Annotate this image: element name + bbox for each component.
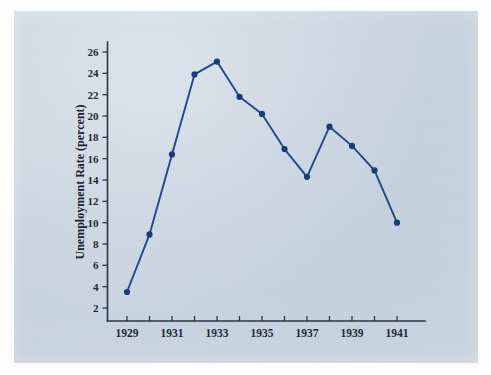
y-tick-label: 20 bbox=[88, 110, 100, 122]
data-point bbox=[259, 111, 265, 117]
figure-root: 2468101214161820222426 19291931193319351… bbox=[0, 0, 491, 375]
y-tick-label: 12 bbox=[88, 195, 100, 207]
y-tick-label: 18 bbox=[88, 131, 100, 143]
y-tick-label: 4 bbox=[93, 281, 99, 293]
y-tick-label: 22 bbox=[88, 89, 100, 101]
y-tick-label: 24 bbox=[88, 67, 100, 79]
y-tick-label: 14 bbox=[88, 174, 100, 186]
x-tick-label: 1929 bbox=[116, 327, 139, 339]
y-tick-label: 10 bbox=[88, 217, 100, 229]
data-point bbox=[214, 59, 220, 65]
x-tick-label: 1941 bbox=[386, 327, 409, 339]
x-tick-label: 1931 bbox=[161, 327, 184, 339]
axes-group bbox=[108, 42, 426, 321]
y-axis-title: Unemployment Rate (percent) bbox=[73, 104, 87, 259]
data-point bbox=[146, 231, 152, 237]
data-point bbox=[371, 167, 377, 173]
y-tick-label: 6 bbox=[93, 259, 99, 271]
data-point bbox=[281, 146, 287, 152]
data-point bbox=[326, 124, 332, 130]
data-series-line bbox=[127, 62, 397, 292]
data-point bbox=[349, 143, 355, 149]
data-point bbox=[236, 94, 242, 100]
x-tick-label: 1933 bbox=[206, 327, 229, 339]
y-tick-label: 26 bbox=[88, 46, 100, 58]
y-tick-label: 8 bbox=[93, 238, 99, 250]
y-axis-tick-labels: 2468101214161820222426 bbox=[88, 46, 100, 314]
line-chart-plot: 2468101214161820222426 19291931193319351… bbox=[0, 0, 491, 375]
data-point bbox=[304, 174, 310, 180]
data-point bbox=[124, 289, 130, 295]
data-point bbox=[394, 220, 400, 226]
y-tick-label: 16 bbox=[88, 153, 100, 165]
x-tick-label: 1937 bbox=[296, 327, 319, 339]
x-tick-label: 1939 bbox=[341, 327, 364, 339]
x-tick-label: 1935 bbox=[251, 327, 274, 339]
y-tick-label: 2 bbox=[93, 302, 99, 314]
data-point bbox=[191, 71, 197, 77]
data-point bbox=[169, 151, 175, 157]
x-axis-tick-labels: 1929193119331935193719391941 bbox=[116, 327, 409, 339]
